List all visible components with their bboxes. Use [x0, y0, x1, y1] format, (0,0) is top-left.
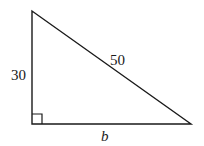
base-label: b	[101, 128, 109, 144]
left-leg-label: 30	[11, 67, 26, 83]
triangle-diagram: 30 50 b	[0, 0, 204, 146]
right-angle-marker	[32, 114, 42, 124]
hypotenuse-label: 50	[110, 52, 125, 68]
